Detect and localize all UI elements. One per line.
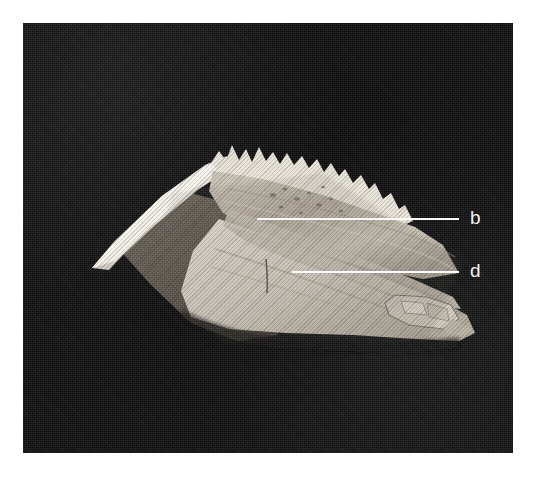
specimen-photograph: b d bbox=[23, 23, 513, 453]
specimen-label-b: b bbox=[470, 208, 481, 227]
figure-root: b d bbox=[0, 0, 544, 479]
bone-specimen-illustration bbox=[23, 23, 513, 453]
specimen-label-d: d bbox=[470, 261, 481, 280]
specimen-shading-overlay bbox=[143, 173, 463, 353]
